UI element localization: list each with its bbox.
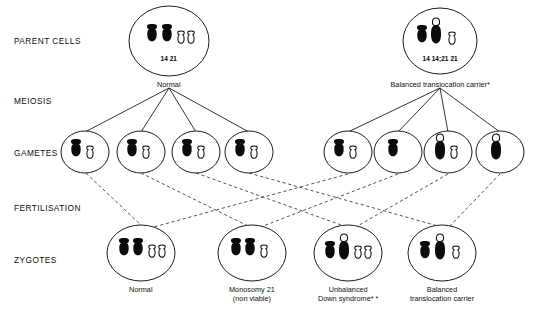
chromosome-open-21 (149, 245, 155, 257)
chromosome-translocation (339, 234, 349, 259)
chromosome-filled-14 (147, 24, 157, 41)
chromosome-filled-14 (71, 139, 81, 156)
fertilisation-line (196, 173, 344, 226)
meiosis-line (85, 88, 169, 132)
gamete-cell-outline[interactable] (172, 131, 220, 173)
chromosome-filled-14 (235, 139, 245, 156)
meiosis-line (141, 88, 169, 132)
caption-line: Unbalanced (318, 285, 378, 294)
fertilisation-lines (86, 173, 500, 228)
caption-line: (non viable) (229, 294, 275, 303)
zygote-monosomy-21-caption: Monosomy 21(non viable) (229, 285, 275, 303)
chromosome-filled-14 (420, 241, 430, 258)
gamete-cell-outline[interactable] (117, 131, 165, 173)
chromosome-open-21 (87, 146, 93, 158)
fertilisation-line (448, 174, 500, 228)
meiosis-line (440, 88, 448, 132)
chromosome-open-21 (350, 146, 356, 158)
gamete-cell-outline[interactable] (424, 131, 472, 173)
caption-line: Normal (129, 285, 153, 294)
chromosome-open-21 (198, 146, 204, 158)
chromosome-translocation (435, 234, 445, 259)
chromosome-translocation (491, 134, 501, 159)
chromosome-open-21 (365, 246, 371, 258)
zygote-unbalanced-down-caption: UnbalancedDown syndrome* * (318, 285, 378, 303)
chromosome-filled-14 (417, 25, 427, 42)
row-label-fertilisation: FERTILISATION (14, 203, 81, 213)
meiosis-line (398, 88, 440, 132)
zygote-balanced-carrier-caption: Balancedtranslocation carrier (410, 285, 474, 303)
diagram-graphics (0, 0, 536, 315)
parent-translocation-carrier-chromosome-label: 14 14;21 21 (423, 55, 458, 62)
chromosome-translocation (435, 134, 445, 159)
chromosome-open-21 (355, 246, 361, 258)
row-label-meiosis: MEIOSIS (14, 96, 52, 106)
chromosome-filled-14 (245, 238, 255, 255)
caption-line: Balanced translocation carrier* (391, 80, 490, 89)
chromosome-filled-14 (162, 24, 172, 41)
caption-line: Down syndrome* * (318, 294, 378, 303)
meiosis-lines (85, 88, 500, 132)
parent-normal-chromosome-label: 14 21 (161, 55, 178, 62)
chromosome-open-21 (159, 245, 165, 257)
meiosis-line (169, 88, 196, 132)
caption-line: Normal (157, 80, 181, 89)
parent-cell-outline[interactable] (129, 6, 209, 76)
chromosome-filled-14 (133, 238, 143, 255)
caption-line: translocation carrier (410, 294, 474, 303)
chromosome-filled-14 (388, 139, 398, 156)
caption-line: Balanced (410, 285, 474, 294)
chromosome-open-21 (143, 146, 149, 158)
parent-translocation-carrier-caption: Balanced translocation carrier* (391, 80, 490, 89)
chromosome-filled-14 (334, 139, 344, 156)
meiosis-line (440, 88, 500, 132)
row-label-parent-cells: PARENT CELLS (14, 36, 81, 46)
gamete-cell-outline[interactable] (61, 131, 109, 173)
chromosome-open-21 (251, 146, 257, 158)
chromosome-open-21 (449, 32, 455, 44)
gamete-cell-outline[interactable] (225, 131, 273, 173)
chromosome-open-21 (261, 245, 267, 257)
fertilisation-line (249, 173, 438, 226)
caption-line: Monosomy 21 (229, 285, 275, 294)
fertilisation-line (141, 173, 248, 226)
gamete-cell-outline[interactable] (374, 131, 422, 173)
diagram-canvas: PARENT CELLSMEIOSISGAMETESFERTILISATIONZ… (0, 0, 536, 315)
zygote-normal-caption: Normal (129, 285, 153, 294)
row-label-gametes: GAMETES (14, 148, 58, 158)
parent-normal-caption: Normal (157, 80, 181, 89)
chromosome-filled-14 (325, 241, 335, 258)
meiosis-line (169, 88, 249, 132)
row-label-zygotes: ZYGOTES (14, 255, 57, 265)
fertilisation-line (86, 173, 142, 226)
chromosome-open-21 (178, 31, 184, 43)
fertilisation-line (354, 174, 448, 228)
chromosome-filled-14 (119, 238, 129, 255)
chromosome-filled-14 (231, 238, 241, 255)
chromosome-filled-14 (127, 139, 137, 156)
parent-cell-outline[interactable] (403, 8, 477, 74)
chromosome-filled-14 (182, 139, 192, 156)
fertilisation-line (150, 174, 348, 228)
chromosome-translocation (431, 18, 441, 43)
chromosome-open-21 (451, 146, 457, 158)
chromosome-open-21 (453, 246, 459, 258)
chromosome-open-21 (188, 31, 194, 43)
gamete-cell-outline[interactable] (324, 131, 372, 173)
meiosis-line (348, 88, 440, 132)
